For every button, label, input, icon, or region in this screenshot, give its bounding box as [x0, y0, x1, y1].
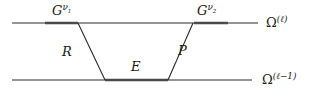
coarse-level-omega: Ω: [262, 72, 273, 87]
pre-smoother-index: 1: [68, 8, 71, 14]
pre-smoother-base: G: [52, 3, 62, 18]
label-fine-level: Ω(ℓ): [266, 15, 287, 29]
label-coarse-level: Ω(ℓ−1): [262, 72, 296, 86]
label-prolongation: P: [178, 44, 187, 57]
restriction-edge: [78, 23, 105, 80]
label-post-smoother: Gν2: [197, 3, 216, 17]
post-smoother-superscript: ν2: [207, 2, 216, 12]
pre-smoother-superscript: ν1: [62, 2, 71, 12]
label-restriction: R: [62, 45, 72, 58]
fine-level-superscript: (ℓ): [277, 14, 288, 24]
multigrid-cycle-figure: Gν1 Gν2 R E P Ω(ℓ) Ω(ℓ−1): [0, 0, 314, 100]
label-coarse-solve: E: [131, 60, 141, 73]
post-smoother-base: G: [197, 3, 207, 18]
label-pre-smoother: Gν1: [52, 3, 71, 17]
coarse-level-superscript: (ℓ−1): [273, 71, 297, 81]
fine-level-omega: Ω: [266, 15, 277, 30]
post-smoother-index: 2: [213, 8, 216, 14]
